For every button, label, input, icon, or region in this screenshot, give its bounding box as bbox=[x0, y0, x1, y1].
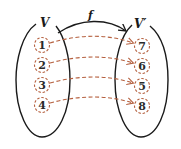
svg-text:5: 5 bbox=[138, 80, 146, 93]
node-2: 2 bbox=[35, 58, 50, 73]
arrow-4-to-8 bbox=[50, 97, 133, 103]
node-4: 4 bbox=[35, 98, 50, 113]
arrow-3-to-5 bbox=[50, 77, 133, 83]
node-5: 5 bbox=[135, 79, 150, 94]
domain-elements: 1 2 3 4 bbox=[35, 38, 50, 113]
domain-set-label: V bbox=[40, 16, 51, 30]
node-3: 3 bbox=[35, 78, 50, 93]
node-7: 7 bbox=[135, 39, 150, 54]
node-6: 6 bbox=[135, 59, 150, 74]
svg-text:4: 4 bbox=[38, 99, 46, 112]
svg-text:8: 8 bbox=[138, 100, 146, 113]
arrow-2-to-6 bbox=[50, 57, 133, 63]
svg-text:7: 7 bbox=[138, 40, 146, 53]
svg-text:2: 2 bbox=[38, 59, 46, 72]
mapping-diagram: V V′ f 1 2 3 4 7 bbox=[0, 0, 181, 149]
codomain-elements: 7 6 5 8 bbox=[135, 39, 150, 114]
codomain-set-label: V′ bbox=[134, 17, 147, 31]
svg-text:3: 3 bbox=[38, 79, 46, 92]
svg-text:1: 1 bbox=[38, 39, 46, 52]
mapping-f-label: f bbox=[87, 9, 95, 22]
node-1: 1 bbox=[35, 38, 50, 53]
mapping-f-arrow bbox=[58, 21, 126, 33]
node-8: 8 bbox=[135, 99, 150, 114]
svg-text:6: 6 bbox=[138, 60, 146, 73]
